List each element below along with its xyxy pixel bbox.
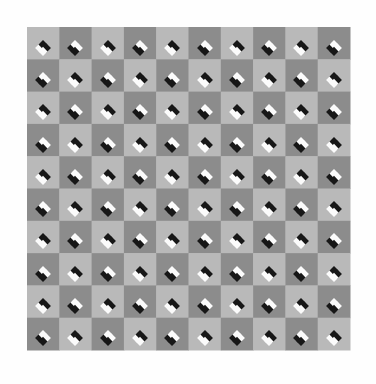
- illusion-figure: A grid of alternating light and dark gra…: [0, 0, 376, 384]
- checkerboard-illusion-canvas: [0, 0, 376, 384]
